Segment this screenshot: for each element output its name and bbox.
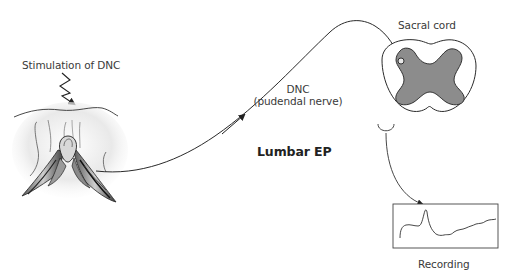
conduction-direction-arrow-icon: [222, 115, 244, 134]
sacral-cord-label: Sacral cord: [398, 19, 456, 31]
genital-anatomy-illustration: [12, 102, 128, 202]
nerve-subtitle: (pudendal nerve): [248, 95, 348, 107]
recording-electrode: [378, 124, 422, 204]
sacral-cord-cross-section: [382, 40, 476, 112]
recording-label: Recording: [418, 258, 470, 270]
stimulation-label: Stimulation of DNC: [22, 59, 120, 71]
nerve-title: DNC: [287, 83, 310, 95]
recording-trace-display: [393, 204, 498, 248]
nerve-entry-dot: [398, 58, 404, 64]
nerve-label: DNC (pudendal nerve): [248, 83, 348, 107]
lumbar-ep-label: Lumbar EP: [257, 146, 332, 158]
stimulation-lightning-icon: [60, 73, 74, 104]
diagram-canvas: [0, 0, 508, 277]
